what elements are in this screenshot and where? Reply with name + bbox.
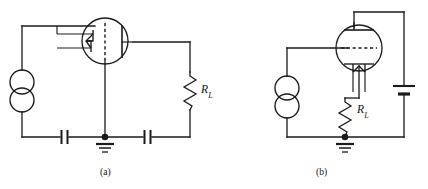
resistor-label-main-b: R — [357, 103, 364, 115]
vacuum-tube-a — [57, 18, 133, 64]
junction-node-b — [342, 134, 349, 141]
ground-symbol-a — [96, 144, 114, 152]
resistor-label-sub-a: L — [208, 91, 212, 100]
resistor-label-sub-b: L — [364, 111, 368, 120]
panel-caption-b: (b) — [316, 168, 327, 178]
ground-symbol-b — [336, 144, 354, 152]
resistor-zigzag-b — [339, 98, 351, 137]
resistor-zigzag-a — [184, 72, 196, 110]
circuit-diagram-canvas — [0, 0, 428, 189]
battery-b — [393, 86, 415, 94]
output-capacitor-a — [145, 130, 151, 144]
circuit-panel-b — [275, 12, 415, 152]
ac-source-a — [10, 70, 34, 112]
ac-source-b — [275, 76, 299, 118]
figure-root: RL RL (a) (b) — [0, 0, 428, 189]
ac-source-circle-upper-b — [275, 76, 299, 100]
panel-a-wiring — [22, 26, 190, 137]
load-resistor-a — [184, 72, 196, 110]
resistor-label-main-a: R — [201, 83, 208, 95]
panel-caption-a: (a) — [100, 168, 111, 178]
ac-source-circle-lower-b — [275, 94, 299, 118]
circuit-panel-a — [10, 18, 196, 152]
vacuum-tube-b — [336, 22, 382, 98]
load-resistor-label-b: RL — [357, 104, 368, 118]
ac-source-circle-upper-a — [10, 70, 34, 94]
input-capacitor-a — [62, 130, 68, 144]
junction-node-a — [102, 134, 109, 141]
load-resistor-label-a: RL — [201, 84, 212, 98]
load-resistor-b — [339, 98, 359, 137]
ac-source-circle-lower-a — [10, 88, 34, 112]
